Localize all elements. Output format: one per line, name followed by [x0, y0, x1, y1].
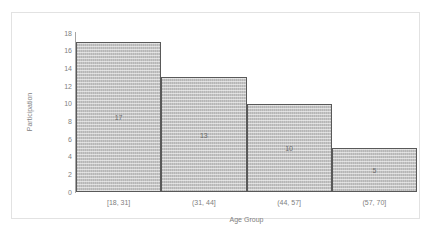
x-axis-tick-label: (44, 57] [247, 199, 332, 207]
chart-frame: Participation 024681012141618 1713105 [1… [11, 12, 420, 219]
x-axis-tick-labels: [18, 31](31, 44](44, 57](57, 70] [76, 199, 417, 211]
y-axis-tick-label: 8 [46, 118, 72, 125]
plot-area: 1713105 [76, 33, 417, 192]
y-axis-tick-label: 10 [46, 100, 72, 107]
y-axis-tick-labels: 024681012141618 [42, 33, 72, 192]
y-axis-tick-label: 4 [46, 153, 72, 160]
bar-value-label: 13 [162, 132, 245, 139]
bar-value-label: 10 [248, 145, 331, 152]
y-axis-title: Participation [26, 93, 33, 132]
bar[interactable]: 10 [247, 104, 332, 192]
bar[interactable]: 17 [76, 42, 161, 192]
y-axis-tick-label: 6 [46, 136, 72, 143]
y-axis-tick-label: 12 [46, 83, 72, 90]
y-axis-tick-label: 0 [46, 189, 72, 196]
y-axis-tick-label: 14 [46, 65, 72, 72]
bar-value-label: 17 [77, 114, 160, 121]
bar-value-label: 5 [333, 167, 416, 174]
x-axis-tick-label: [18, 31] [76, 199, 161, 207]
x-axis-title: Age Group [76, 216, 417, 224]
bar[interactable]: 13 [161, 77, 246, 192]
bar[interactable]: 5 [332, 148, 417, 192]
y-axis-tick-label: 2 [46, 171, 72, 178]
x-axis-tick-label: (31, 44] [161, 199, 246, 207]
y-axis-tick-label: 16 [46, 47, 72, 54]
y-axis-tick-label: 18 [46, 30, 72, 37]
x-axis-tick-label: (57, 70] [332, 199, 417, 207]
